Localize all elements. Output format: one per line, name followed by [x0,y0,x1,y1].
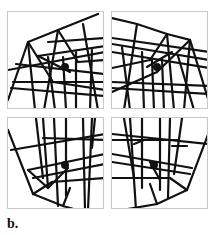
panel-top-right [111,11,208,109]
wireframe-grid [112,12,208,109]
figure-label: b. [7,216,18,232]
panel-bottom-left [7,117,104,209]
panel-bottom-right [111,117,208,209]
wireframe-grid [112,118,208,209]
wireframe-grid [8,118,104,209]
wireframe-grid [8,12,104,109]
panel-top-left [7,11,104,109]
